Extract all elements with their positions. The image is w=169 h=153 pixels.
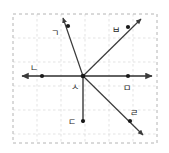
label-upleft: ㄱ [51, 28, 59, 38]
point-upright [126, 25, 130, 29]
label-vertex: ㅅ [71, 82, 79, 92]
geometry-diagram: ㄱ ㄴ ㄷ ㄹ ㅁ ㅂ ㅅ [0, 0, 169, 153]
label-down: ㄷ [68, 117, 76, 127]
point-down [81, 119, 85, 123]
point-downright [128, 119, 132, 123]
point-vertex [81, 74, 86, 79]
point-upleft [66, 24, 70, 28]
label-downright: ㄹ [130, 108, 138, 118]
label-left: ㄴ [30, 63, 38, 73]
label-upright: ㅂ [112, 25, 120, 35]
point-left [40, 74, 44, 78]
point-right [126, 74, 130, 78]
label-right: ㅁ [123, 83, 131, 93]
geometry-canvas: ㄱ ㄴ ㄷ ㄹ ㅁ ㅂ ㅅ [0, 0, 169, 153]
